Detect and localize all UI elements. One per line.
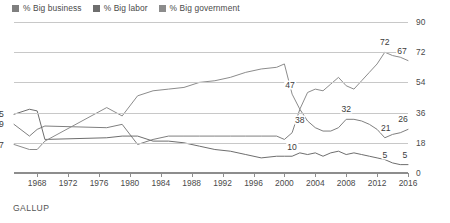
legend-item-label: % Big government — [170, 3, 240, 13]
label-big-labor-2016: 5 — [402, 150, 409, 159]
x-axis-tick-1988 — [192, 173, 193, 177]
y-axis-label-90: 90 — [416, 17, 440, 27]
gridline-18 — [14, 143, 408, 144]
x-axis-tick-2016 — [408, 173, 409, 177]
series-line-2 — [14, 52, 408, 149]
chart-legend: % Big business% Big labor% Big governmen… — [12, 3, 240, 13]
legend-item-0[interactable]: % Big business — [12, 3, 82, 13]
y-axis-label-72: 72 — [416, 47, 440, 57]
label-big-government-2002: 38 — [294, 116, 306, 125]
gridline-72 — [14, 52, 408, 53]
series-line-0 — [14, 109, 408, 144]
x-axis-tick-1976 — [99, 173, 100, 177]
x-axis-label-2004: 2004 — [306, 178, 325, 188]
square-swatch-icon — [12, 5, 19, 12]
x-axis-label-1996: 1996 — [244, 178, 263, 188]
label-big-business-2008: 32 — [340, 105, 352, 114]
x-axis-label-1984: 1984 — [151, 178, 170, 188]
label-big-labor-2013: 5 — [381, 150, 388, 159]
x-axis-tick-1972 — [68, 173, 69, 177]
gridline-90 — [14, 22, 408, 23]
x-axis-tick-1980 — [130, 173, 131, 177]
legend-item-label: % Big labor — [104, 3, 148, 13]
x-axis-tick-1996 — [254, 173, 255, 177]
label-big-labor-start: 35 — [0, 110, 5, 119]
x-axis-tick-1968 — [37, 173, 38, 177]
square-swatch-icon — [159, 5, 166, 12]
x-axis-label-1988: 1988 — [182, 178, 201, 188]
gallup-trend-chart: % Big business% Big labor% Big governmen… — [0, 0, 450, 223]
series-lines — [14, 22, 408, 173]
label-big-government-2013: 72 — [379, 38, 391, 47]
x-axis-label-2000: 2000 — [275, 178, 294, 188]
x-axis-tick-1992 — [223, 173, 224, 177]
y-axis-label-18: 18 — [416, 138, 440, 148]
plot-area — [14, 22, 408, 173]
x-axis-label-1968: 1968 — [28, 178, 47, 188]
x-axis-label-1972: 1972 — [59, 178, 78, 188]
legend-item-label: % Big business — [23, 3, 82, 13]
source-label: GALLUP — [13, 203, 49, 213]
label-big-business-start: 29 — [0, 120, 5, 129]
y-axis-label-36: 36 — [416, 108, 440, 118]
square-swatch-icon — [93, 5, 100, 12]
label-big-business-2013: 21 — [380, 123, 392, 132]
label-big-business-2016: 26 — [397, 115, 409, 124]
x-axis-tick-2004 — [315, 173, 316, 177]
x-axis-tick-2012 — [377, 173, 378, 177]
legend-item-2[interactable]: % Big government — [159, 3, 240, 13]
label-big-government-start: 17 — [0, 140, 5, 149]
gridline-54 — [14, 82, 408, 83]
x-axis-label-1976: 1976 — [90, 178, 109, 188]
y-axis-label-54: 54 — [416, 77, 440, 87]
series-line-1 — [14, 109, 408, 164]
legend-item-1[interactable]: % Big labor — [93, 3, 148, 13]
y-axis-label-0: 0 — [416, 168, 440, 178]
x-axis-tick-2000 — [284, 173, 285, 177]
label-big-government-2001: 47 — [284, 81, 296, 90]
label-big-government-2016: 67 — [396, 46, 408, 55]
gridline-0 — [14, 173, 408, 174]
x-axis-label-2012: 2012 — [368, 178, 387, 188]
x-axis-label-2016: 2016 — [399, 178, 418, 188]
x-axis-tick-2008 — [346, 173, 347, 177]
x-axis-label-1992: 1992 — [213, 178, 232, 188]
label-big-labor-2001: 10 — [286, 143, 298, 152]
x-axis-tick-1984 — [161, 173, 162, 177]
x-axis-label-2008: 2008 — [337, 178, 356, 188]
x-axis-label-1980: 1980 — [121, 178, 140, 188]
